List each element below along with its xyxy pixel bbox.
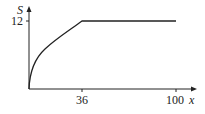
x-axis-arrow-icon (191, 87, 197, 92)
curve-line (29, 21, 176, 89)
x-axis-label: x (188, 93, 195, 107)
x-tick-label-100: 100 (166, 93, 184, 107)
y-axis-arrow-icon (27, 6, 32, 12)
chart: S 12 36 100 x (0, 0, 205, 114)
x-tick-label-36: 36 (76, 93, 88, 107)
y-tick-label-12: 12 (11, 14, 23, 28)
